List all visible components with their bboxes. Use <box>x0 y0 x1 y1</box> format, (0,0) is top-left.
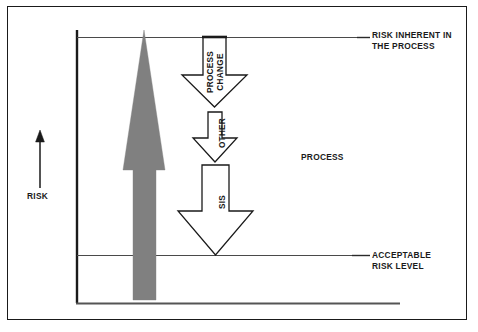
diagram-canvas: RISK INHERENT INTHE PROCESS ACCEPTABLERI… <box>0 0 478 332</box>
risk-axis-label: RISK <box>27 191 48 202</box>
layer-arrow-process-change-label: PROCESS CHANGE <box>206 44 226 100</box>
process-region-label: PROCESS <box>301 152 344 163</box>
risk-magnitude-arrow <box>123 30 165 300</box>
risk-axis-arrow-icon <box>36 130 45 188</box>
acceptable-risk-label-line2: RISK LEVEL <box>372 261 424 271</box>
acceptable-risk-label: ACCEPTABLERISK LEVEL <box>372 250 431 272</box>
risk-inherent-label-line1: RISK INHERENT IN <box>372 30 452 40</box>
risk-inherent-label-line2: THE PROCESS <box>372 41 435 51</box>
risk-inherent-label: RISK INHERENT INTHE PROCESS <box>372 30 452 52</box>
layer-arrow-other <box>193 112 237 162</box>
layer-arrow-sis <box>178 165 253 255</box>
layer-arrow-other-label: OTHER <box>218 115 228 151</box>
acceptable-risk-label-line1: ACCEPTABLE <box>372 250 431 260</box>
layer-arrow-sis-label: SIS <box>218 188 228 216</box>
